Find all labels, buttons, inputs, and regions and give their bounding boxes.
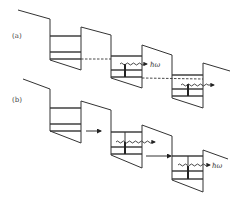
panel-a-label: (a) (12, 32, 22, 40)
panel-b-label: (b) (12, 96, 22, 104)
photon-wave-arrow (116, 141, 155, 143)
panel-a-well-2: ħω (111, 56, 161, 77)
panel-b-well-2 (111, 132, 155, 154)
quantum-cascade-diagram: (a) ħω (b) (0, 0, 242, 198)
photon-label: ħω (150, 61, 161, 69)
photon-wave-arrow (178, 164, 210, 166)
panel-b-well-3: ħω (172, 156, 223, 179)
panel-b-well-1 (50, 108, 81, 131)
photon-label: ħω (212, 162, 223, 170)
photon-wave-arrow (181, 84, 214, 86)
panel-a: (a) ħω (12, 10, 230, 108)
panel-a-well-1 (50, 36, 81, 59)
